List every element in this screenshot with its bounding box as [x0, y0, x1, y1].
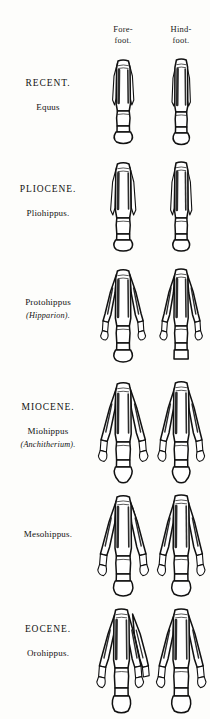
- epoch-label: RECENT.: [2, 78, 94, 88]
- row-label-pliocene-pliohippus: PLIOCENE. Pliohippus.: [2, 184, 94, 220]
- genus-label: Miohippus: [2, 425, 94, 438]
- row-protohippus: Protohippus (Hipparion).: [0, 264, 210, 368]
- row-mesohippus: Mesohippus.: [0, 492, 210, 600]
- epoch-label: PLIOCENE.: [2, 184, 94, 194]
- row-pliocene-pliohippus: PLIOCENE. Pliohippus.: [0, 158, 210, 254]
- figure-forefoot-orohippus: [96, 606, 150, 719]
- figure-forefoot-pliohippus: [96, 158, 150, 254]
- horse-foot-evolution-plate: Fore- foot. Hind- foot. RECENT. Equus: [0, 0, 210, 719]
- figure-forefoot-miohippus: [96, 378, 150, 486]
- row-label-eocene-orohippus: EOCENE. Orohippus.: [2, 624, 94, 660]
- epoch-label: MIOCENE.: [2, 402, 94, 412]
- figure-hindfoot-pliohippus: [154, 158, 208, 254]
- column-header-hindfoot-line1: Hind-: [154, 24, 208, 35]
- genus-label: Pliohippus.: [2, 207, 94, 220]
- figure-forefoot-equus: [96, 56, 150, 148]
- row-recent-equus: RECENT. Equus: [0, 56, 210, 148]
- column-header-forefoot: Fore- foot.: [96, 24, 150, 46]
- column-header-forefoot-line2: foot.: [96, 35, 150, 46]
- figure-hindfoot-protohippus: [154, 264, 208, 368]
- figure-forefoot-mesohippus: [96, 492, 150, 600]
- genus-label: Equus: [2, 101, 94, 114]
- figure-hindfoot-mesohippus: [154, 492, 208, 600]
- genus-label: Protohippus: [2, 296, 94, 309]
- row-label-miocene-miohippus: MIOCENE. Miohippus (Anchitherium).: [2, 402, 94, 451]
- genus-label: Mesohippus.: [2, 528, 94, 541]
- figure-forefoot-protohippus: [96, 264, 150, 368]
- row-label-recent-equus: RECENT. Equus: [2, 78, 94, 114]
- column-headers: Fore- foot. Hind- foot.: [96, 24, 210, 58]
- genus-synonym-label: (Hipparion).: [2, 309, 94, 322]
- row-label-mesohippus: Mesohippus.: [2, 528, 94, 541]
- row-eocene-orohippus: EOCENE. Orohippus.: [0, 606, 210, 719]
- genus-synonym-label: (Anchitherium).: [2, 438, 94, 451]
- row-label-protohippus: Protohippus (Hipparion).: [2, 296, 94, 322]
- column-header-forefoot-line1: Fore-: [96, 24, 150, 35]
- column-header-hindfoot: Hind- foot.: [154, 24, 208, 46]
- row-miocene-miohippus: MIOCENE. Miohippus (Anchitherium).: [0, 378, 210, 486]
- figure-hindfoot-miohippus: [154, 378, 208, 486]
- figure-hindfoot-equus: [154, 56, 208, 148]
- column-header-hindfoot-line2: foot.: [154, 35, 208, 46]
- figure-hindfoot-orohippus: [154, 606, 208, 719]
- genus-label: Orohippus.: [2, 647, 94, 660]
- epoch-label: EOCENE.: [2, 624, 94, 634]
